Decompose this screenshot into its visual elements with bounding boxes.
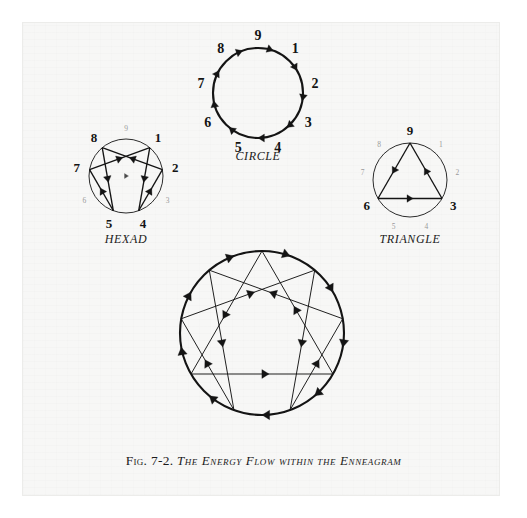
point-number-1: 1 <box>155 130 162 145</box>
figure-caption: Fig. 7-2. The Energy Flow within the Enn… <box>0 453 527 469</box>
point-number-1: 1 <box>292 41 299 56</box>
panel-label-triangle: TRIANGLE <box>380 232 441 246</box>
hexad-segment-1-to-4-arrowhead <box>298 339 307 347</box>
triangle-segment-9-to-6-arrowhead <box>223 310 231 318</box>
point-number-4: 4 <box>140 216 147 231</box>
panel-label-hexad: HEXAD <box>104 232 147 246</box>
point-number-7: 7 <box>197 76 204 91</box>
rim-arrow-after-5 <box>209 396 218 404</box>
hexad-segment-8-to-5-arrowhead <box>103 176 111 183</box>
circle-rim-arrows <box>211 45 307 142</box>
point-number-9: 9 <box>407 123 414 138</box>
figure-number: Fig. 7-2. <box>126 453 174 468</box>
triangle-triangle-path <box>378 143 442 202</box>
hexad-segment-4-to-2-arrowhead <box>312 360 320 368</box>
hexad-center-mark <box>125 174 129 179</box>
point-number-2: 2 <box>172 160 179 175</box>
point-number-4: 4 <box>425 222 429 231</box>
point-number-3: 3 <box>166 196 170 205</box>
point-number-1: 1 <box>439 140 443 149</box>
panel-hexad: 912345678HEXAD <box>74 124 179 246</box>
point-number-8: 8 <box>217 41 224 56</box>
figure-caption-text: The Energy Flow within the Enneagram <box>177 453 401 468</box>
panel-triangle: 912345678TRIANGLE <box>361 123 460 246</box>
panel-label-circle: CIRCLE <box>236 149 281 163</box>
point-number-9: 9 <box>124 124 128 133</box>
panel-circle: 912345678CIRCLE <box>197 28 318 163</box>
panel-enneagram <box>178 249 349 420</box>
point-number-8: 8 <box>377 140 381 149</box>
point-number-6: 6 <box>83 196 87 205</box>
point-number-6: 6 <box>204 115 211 130</box>
point-number-7: 7 <box>361 168 365 177</box>
hexad-hexad-path <box>90 148 163 211</box>
point-number-2: 2 <box>455 168 459 177</box>
rim-arrow-after-2 <box>339 339 348 347</box>
point-number-7: 7 <box>74 160 81 175</box>
point-number-6: 6 <box>363 198 370 213</box>
hexad-segment-5-to-7-arrowhead <box>205 360 213 368</box>
rim-arrow-after-6 <box>211 101 219 108</box>
rim-arrow-after-4 <box>258 134 264 142</box>
point-number-2: 2 <box>312 76 319 91</box>
triangle-outer-circle <box>373 143 447 217</box>
hexad-segment-8-to-5-arrowhead <box>217 339 226 347</box>
point-number-3: 3 <box>450 198 457 213</box>
enneagram-triangle-path <box>191 251 333 378</box>
hexad-segment-1-to-4-arrowhead <box>141 176 149 183</box>
point-number-8: 8 <box>91 130 98 145</box>
enneagram-figure: 912345678HEXAD912345678CIRCLE912345678TR… <box>0 0 527 518</box>
triangle-segment-6-to-3-arrowhead <box>262 370 269 379</box>
point-number-5: 5 <box>106 216 113 231</box>
rim-arrow-after-6 <box>178 347 187 355</box>
rim-arrow-after-4 <box>262 410 270 419</box>
point-number-9: 9 <box>255 28 262 43</box>
triangle-segment-6-to-3-arrowhead <box>407 195 413 203</box>
point-number-3: 3 <box>305 115 312 130</box>
triangle-segment-3-to-9-arrowhead <box>294 306 302 314</box>
point-number-5: 5 <box>392 222 396 231</box>
rim-arrow-after-2 <box>300 94 308 101</box>
